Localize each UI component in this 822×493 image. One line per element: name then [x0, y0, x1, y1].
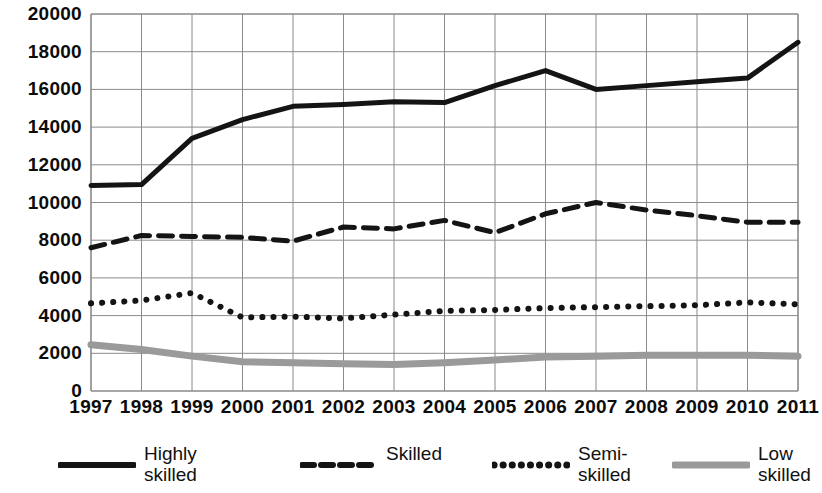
legend-label: Low skilled: [758, 443, 811, 485]
plot-area: [0, 0, 822, 400]
legend-swatch-solid: [672, 453, 750, 477]
legend-entry: Skilled: [300, 443, 442, 477]
legend-label: Semi- skilled: [578, 443, 631, 485]
legend-swatch-dotted: [492, 453, 570, 477]
legend-label: Highly skilled: [144, 443, 197, 485]
legend-swatch-dashed: [300, 453, 378, 477]
legend-entry: Low skilled: [672, 443, 811, 485]
legend-entry: Semi- skilled: [492, 443, 631, 485]
legend-swatch-solid: [58, 453, 136, 477]
line-chart: 0200040006000800010000120001400016000180…: [0, 0, 822, 493]
chart-legend: Highly skilledSkilledSemi- skilledLow sk…: [0, 443, 822, 493]
legend-label: Skilled: [386, 443, 442, 464]
legend-entry: Highly skilled: [58, 443, 197, 485]
